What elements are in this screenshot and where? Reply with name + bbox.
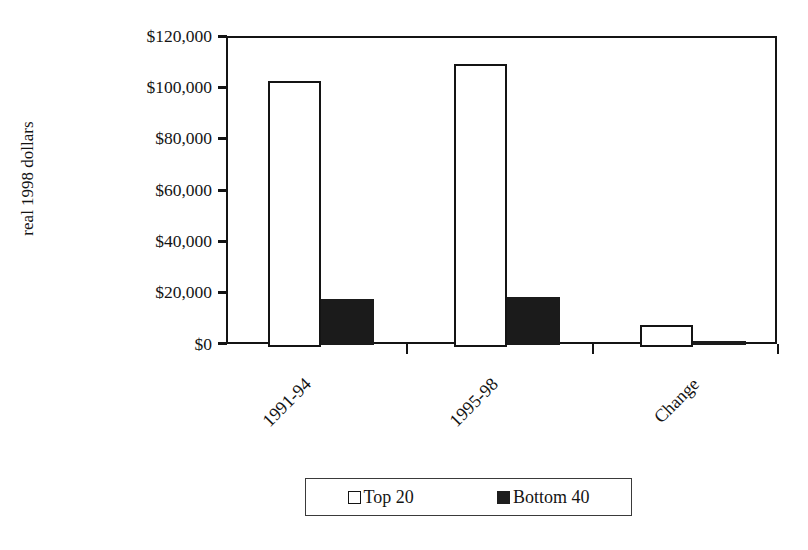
y-axis-title: real 1998 dollars	[19, 94, 36, 264]
bar-bottom40-change	[693, 341, 746, 345]
y-tick-label-0: $0	[92, 336, 212, 354]
x-category-label-change: Change	[591, 375, 703, 487]
bar-top20-change	[640, 325, 693, 347]
x-category-label-1995-98: 1995-98	[390, 375, 502, 487]
bar-top20-1995-98	[454, 64, 507, 347]
legend-label-bottom40: Bottom 40	[513, 488, 590, 506]
y-tick-label-100000: $100,000	[92, 79, 212, 97]
legend-label-top20: Top 20	[364, 488, 414, 506]
chart-legend: Top 20 Bottom 40	[305, 478, 632, 516]
bar-bottom40-1991-94	[321, 299, 374, 345]
x-category-label-1991-94: 1991-94	[203, 375, 315, 487]
x-category-tick-1	[406, 344, 408, 354]
y-tick-label-60000: $60,000	[92, 182, 212, 200]
bar-top20-1991-94	[268, 81, 321, 347]
legend-entry-top20: Top 20	[348, 488, 414, 506]
bar-chart: real 1998 dollars $120,000 $100,000 $80,…	[0, 0, 808, 550]
y-tick-label-120000: $120,000	[92, 28, 212, 46]
bar-bottom40-1995-98	[507, 297, 560, 345]
open-square-swatch-icon	[348, 491, 361, 504]
y-tick-label-80000: $80,000	[92, 130, 212, 148]
x-category-tick-3	[777, 344, 779, 354]
x-category-tick-2	[592, 344, 594, 354]
legend-entry-bottom40: Bottom 40	[497, 488, 590, 506]
y-tick-label-40000: $40,000	[92, 233, 212, 251]
filled-square-swatch-icon	[497, 491, 510, 504]
y-axis-tick-labels: $120,000 $100,000 $80,000 $60,000 $40,00…	[88, 0, 212, 550]
y-tick-label-20000: $20,000	[92, 284, 212, 302]
